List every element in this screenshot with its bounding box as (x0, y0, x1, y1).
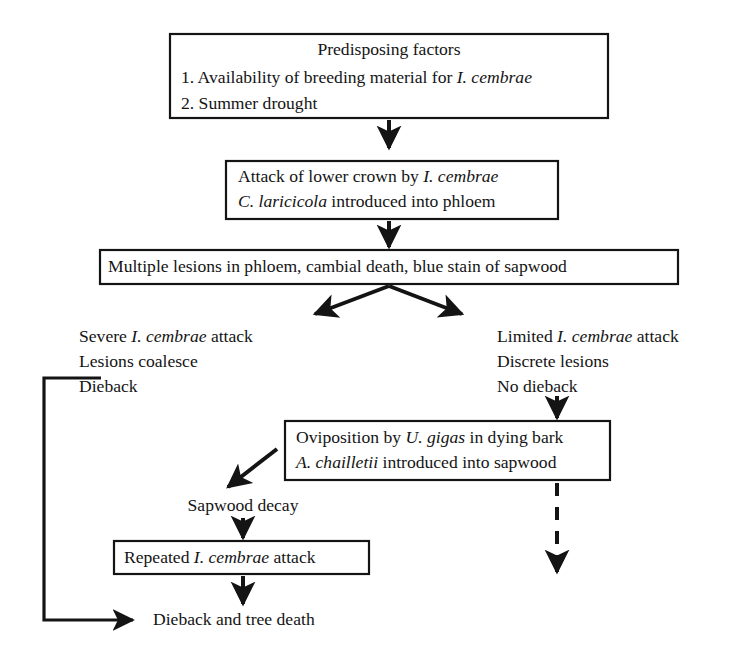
node-severe-attack-line-1: Severe I. cembrae attack (79, 326, 253, 346)
node-predisposing-factors-line-3: 2. Summer drought (181, 93, 317, 113)
node-limited-attack-line-3: No dieback (497, 376, 578, 396)
node-multiple-lesions-line-1: Multiple lesions in phloem, cambial deat… (108, 256, 567, 276)
node-predisposing-factors-line-2: 1. Availability of breeding material for… (181, 67, 532, 87)
flowchart-canvas: Predisposing factors 1. Availability of … (0, 0, 746, 657)
flowchart-diagram: Predisposing factors 1. Availability of … (0, 0, 746, 657)
node-limited-attack-line-1: Limited I. cembrae attack (497, 326, 679, 346)
edge-lesions-to-severe (315, 286, 389, 314)
node-sapwood-decay-label: Sapwood decay (188, 495, 299, 515)
edge-lesions-to-limited (389, 286, 462, 314)
node-severe-attack-line-2: Lesions coalesce (79, 351, 198, 371)
node-dieback-tree-death-label: Dieback and tree death (153, 609, 315, 629)
edge-severe-to-dieback-loop (44, 378, 133, 620)
node-oviposition-line-1: Oviposition by U. gigas in dying bark (296, 427, 564, 447)
node-repeated-attack-line-1: Repeated I. cembrae attack (124, 547, 316, 567)
node-predisposing-factors-line-1: Predisposing factors (317, 39, 460, 59)
node-limited-attack-line-2: Discrete lesions (497, 351, 609, 371)
node-oviposition-line-2: A. chailletii introduced into sapwood (295, 452, 557, 472)
edge-oviposition-to-sapwood-decay (228, 449, 277, 487)
node-attack-lower-crown-line-2: C. laricicola introduced into phloem (238, 191, 496, 211)
node-attack-lower-crown-line-1: Attack of lower crown by I. cembrae (238, 166, 499, 186)
